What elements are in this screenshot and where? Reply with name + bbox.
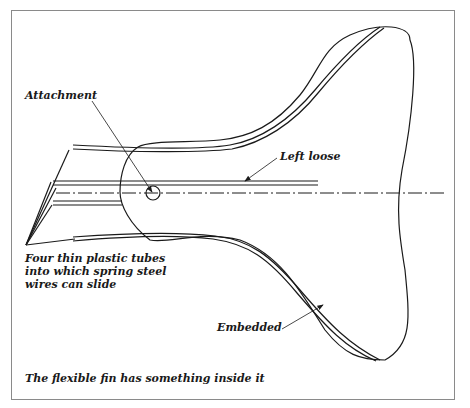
tubes-label-line1: Four thin plastic tubes bbox=[25, 252, 165, 265]
left-loose-label: Left loose bbox=[280, 150, 340, 163]
left-loose-leader bbox=[245, 158, 277, 181]
fan-line-5 bbox=[26, 239, 75, 245]
tubes-label-line2: into which spring steel bbox=[25, 265, 166, 278]
tubes-label-line3: wires can slide bbox=[25, 278, 116, 291]
diagram-caption: The flexible fin has something inside it bbox=[25, 372, 265, 385]
fan-line-1 bbox=[26, 150, 69, 245]
attachment-label: Attachment bbox=[25, 89, 97, 102]
embedded-label: Embedded bbox=[217, 321, 282, 334]
fan-line-2 bbox=[26, 182, 51, 245]
upper-embedded-tube-b bbox=[73, 28, 384, 152]
fan-line-3 bbox=[26, 188, 56, 245]
fin-diagram bbox=[0, 0, 470, 408]
